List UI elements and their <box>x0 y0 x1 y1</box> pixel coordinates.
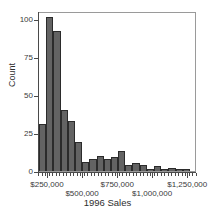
x-axis-minor-tick <box>91 173 92 176</box>
histogram-bars <box>39 13 195 171</box>
y-axis-tick <box>34 58 38 59</box>
x-axis-tick-label: $1,250,000 <box>167 180 207 189</box>
x-axis-minor-tick <box>38 173 39 176</box>
histogram-bar <box>118 151 125 171</box>
histogram-bar <box>111 157 118 171</box>
x-axis-tick-label: $250,000 <box>30 180 63 189</box>
x-axis-minor-tick <box>157 173 158 176</box>
x-axis-minor-tick <box>112 173 113 176</box>
y-axis-tick-label: 75 <box>24 54 33 62</box>
histogram-bar <box>82 162 89 171</box>
x-axis-minor-tick <box>136 173 137 176</box>
x-axis-tick-label: $500,000 <box>65 189 98 198</box>
x-axis-major-tick <box>187 173 188 178</box>
histogram-bar <box>147 169 154 171</box>
x-axis-minor-tick <box>122 173 123 176</box>
x-axis-title: 1996 Sales <box>0 197 215 208</box>
x-axis-minor-tick <box>168 173 169 176</box>
y-axis-line <box>38 12 39 172</box>
histogram-bar <box>75 142 82 171</box>
histogram-bar <box>39 124 46 171</box>
x-axis-minor-tick <box>105 173 106 176</box>
histogram-bar <box>125 165 132 171</box>
y-axis-labels: 0255075100 <box>0 0 33 216</box>
x-axis-minor-tick <box>119 173 120 176</box>
x-axis-minor-tick <box>126 173 127 176</box>
x-axis-minor-tick <box>133 173 134 176</box>
histogram-bar <box>140 165 147 171</box>
x-axis-minor-tick <box>49 173 50 176</box>
histogram-bar <box>183 169 190 171</box>
plot-area <box>38 12 196 172</box>
x-axis-minor-tick <box>164 173 165 176</box>
x-axis-tick-label: $1,000,000 <box>132 189 172 198</box>
histogram-bar <box>68 121 75 171</box>
y-axis-tick <box>34 20 38 21</box>
x-axis-minor-tick <box>108 173 109 176</box>
histogram-bar <box>97 156 104 171</box>
x-axis-minor-tick <box>52 173 53 176</box>
histogram-bar <box>132 163 139 171</box>
histogram-bar <box>161 169 168 171</box>
x-axis-minor-tick <box>101 173 102 176</box>
histogram-bar <box>46 17 53 171</box>
x-axis-minor-tick <box>98 173 99 176</box>
x-axis-minor-tick <box>182 173 183 176</box>
y-axis-tick <box>34 96 38 97</box>
histogram-bar <box>89 159 96 171</box>
x-axis-minor-tick <box>143 173 144 176</box>
x-axis-major-tick <box>47 173 48 178</box>
y-axis-tick-label: 0 <box>29 168 33 176</box>
x-axis-minor-tick <box>189 173 190 176</box>
y-axis-tick <box>34 134 38 135</box>
x-axis-minor-tick <box>42 173 43 176</box>
x-axis-minor-tick <box>59 173 60 176</box>
y-axis-tick-label: 25 <box>24 130 33 138</box>
histogram-figure: 0255075100 Count 1996 Sales $250,000$500… <box>0 0 215 216</box>
x-axis-tick-label: $750,000 <box>101 180 134 189</box>
histogram-bar <box>154 166 161 171</box>
x-axis-minor-tick <box>175 173 176 176</box>
x-axis-minor-tick <box>192 173 193 176</box>
x-axis-minor-tick <box>73 173 74 176</box>
x-axis-minor-tick <box>94 173 95 176</box>
histogram-bar <box>61 110 68 171</box>
x-axis-minor-tick <box>70 173 71 176</box>
histogram-bar <box>104 159 111 171</box>
y-axis-title: Count <box>7 45 17 105</box>
x-axis-major-tick <box>82 173 83 178</box>
x-axis-minor-tick <box>161 173 162 176</box>
x-axis-major-tick <box>117 173 118 178</box>
x-axis-minor-tick <box>77 173 78 176</box>
x-axis-minor-tick <box>196 173 197 176</box>
x-axis-minor-tick <box>178 173 179 176</box>
x-axis-minor-tick <box>154 173 155 176</box>
y-axis-tick-label: 100 <box>20 16 33 24</box>
histogram-bar <box>168 168 175 171</box>
x-axis-minor-tick <box>140 173 141 176</box>
histogram-bar <box>53 31 60 171</box>
x-axis-minor-tick <box>56 173 57 176</box>
x-axis-minor-tick <box>129 173 130 176</box>
y-axis-tick-label: 50 <box>24 92 33 100</box>
x-axis-minor-tick <box>66 173 67 176</box>
x-axis-minor-tick <box>63 173 64 176</box>
x-axis-minor-tick <box>87 173 88 176</box>
x-axis-minor-tick <box>171 173 172 176</box>
x-axis-major-tick <box>152 173 153 178</box>
histogram-bar <box>176 169 183 171</box>
x-axis-minor-tick <box>147 173 148 176</box>
x-axis-minor-tick <box>84 173 85 176</box>
